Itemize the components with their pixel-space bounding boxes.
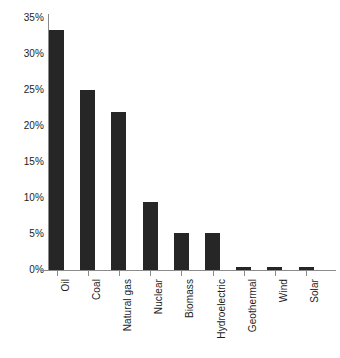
x-axis-category-label: Natural gas (123, 279, 133, 331)
bar (174, 233, 189, 270)
bar-chart: 0%5%10%15%20%25%30%35% OilCoalNatural ga… (0, 0, 340, 358)
x-axis-category-label: Biomass (185, 279, 195, 318)
bar (236, 267, 251, 270)
x-axis-tick-mark (57, 271, 58, 276)
x-axis-tick-mark (150, 271, 151, 276)
x-axis-category-label: Solar (310, 279, 320, 303)
x-axis-category-label: Oil (61, 279, 71, 292)
bar (267, 267, 282, 270)
x-axis-category-label: Coal (92, 279, 102, 300)
bar (80, 90, 95, 270)
x-axis-tick-mark (88, 271, 89, 276)
x-axis-category-label: Geothermal (248, 279, 258, 332)
x-axis-category-label: Wind (279, 279, 289, 302)
bars-layer: OilCoalNatural gasNuclearBiomassHydroele… (0, 0, 340, 358)
bar (49, 30, 64, 270)
bar (143, 202, 158, 270)
x-axis-tick-mark (119, 271, 120, 276)
x-axis-category-label: Nuclear (154, 279, 164, 314)
x-axis-tick-mark (181, 271, 182, 276)
bar (299, 267, 314, 270)
x-axis-category-label: Hydroelectric (217, 279, 227, 339)
bar (111, 112, 126, 270)
x-axis-tick-mark (306, 271, 307, 276)
x-axis-tick-mark (213, 271, 214, 276)
x-axis-tick-mark (275, 271, 276, 276)
bar (205, 233, 220, 270)
x-axis-tick-mark (244, 271, 245, 276)
